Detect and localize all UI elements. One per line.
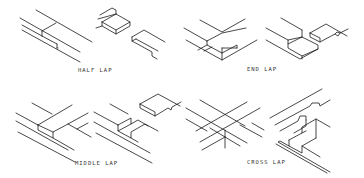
line-segment bbox=[200, 108, 260, 142]
line-segment bbox=[275, 100, 330, 125]
line-segment bbox=[94, 122, 150, 153]
line-segment bbox=[100, 8, 116, 15]
line-segment bbox=[184, 28, 207, 41]
line-segment bbox=[94, 112, 118, 125]
line-segment bbox=[200, 19, 245, 32]
line-segment bbox=[140, 102, 181, 116]
line-segment bbox=[96, 133, 152, 163]
line-segment bbox=[140, 94, 180, 106]
line-segment bbox=[186, 119, 207, 131]
line-segment bbox=[96, 26, 102, 28]
line-segment bbox=[140, 104, 155, 116]
line-segment bbox=[42, 36, 57, 44]
line-segment bbox=[302, 146, 320, 157]
line-segment bbox=[278, 141, 330, 172]
line-segment bbox=[22, 25, 42, 36]
line-segment bbox=[68, 124, 91, 137]
cross-lap-label: CROSS LAP bbox=[247, 159, 286, 165]
line-segment bbox=[196, 102, 247, 131]
middle-lap-drawing bbox=[16, 94, 181, 163]
middle-lap-label: MIDDLE LAP bbox=[75, 160, 118, 166]
half-lap-label: HALF LAP bbox=[78, 67, 113, 73]
line-segment bbox=[42, 23, 56, 31]
line-segment bbox=[132, 30, 165, 42]
half-lap-drawing bbox=[20, 8, 165, 62]
line-segment bbox=[266, 37, 318, 59]
line-segment bbox=[186, 40, 257, 60]
end-lap-drawing bbox=[184, 18, 348, 60]
line-segment bbox=[266, 28, 288, 40]
line-segment bbox=[204, 47, 212, 51]
end-lap-label: END LAP bbox=[247, 66, 277, 72]
line-segment bbox=[77, 123, 88, 129]
line-segment bbox=[38, 105, 72, 125]
line-segment bbox=[310, 24, 347, 36]
line-segment bbox=[53, 138, 74, 150]
line-segment bbox=[22, 30, 80, 62]
line-segment bbox=[110, 104, 128, 114]
line-segment bbox=[18, 132, 75, 162]
line-segment bbox=[118, 124, 158, 138]
line-segment bbox=[200, 100, 245, 126]
line-segment bbox=[288, 44, 318, 56]
line-segment bbox=[132, 39, 136, 41]
line-segment bbox=[20, 18, 80, 52]
lap-joints-figure bbox=[0, 0, 364, 178]
line-segment bbox=[225, 137, 240, 146]
line-segment bbox=[38, 113, 88, 138]
line-segment bbox=[207, 28, 246, 41]
line-segment bbox=[131, 138, 138, 142]
line-segment bbox=[252, 123, 264, 130]
line-segment bbox=[186, 108, 247, 143]
line-segment bbox=[281, 18, 302, 30]
line-segment bbox=[302, 131, 306, 133]
line-segment bbox=[32, 103, 52, 114]
line-segment bbox=[118, 124, 131, 131]
